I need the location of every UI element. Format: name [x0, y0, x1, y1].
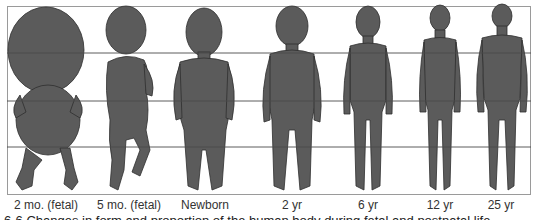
- stage-label-5mo: 5 mo. (fetal): [97, 198, 161, 212]
- stage-label-2yr: 2 yr: [282, 198, 302, 212]
- toddler-2yr-figure: [263, 6, 321, 190]
- stage-label-25yr: 25 yr: [488, 198, 515, 212]
- stage-label-12yr: 12 yr: [427, 198, 454, 212]
- child-6yr-figure: [344, 6, 393, 190]
- stage-label-2mo: 2 mo. (fetal): [14, 198, 78, 212]
- adolescent-12yr-figure: [420, 5, 461, 190]
- newborn-figure: [174, 8, 235, 190]
- body-proportion-illustration: [0, 0, 541, 200]
- figure-caption: 6-6 Changes in form and proportion of th…: [4, 213, 494, 220]
- fetus-5mo-figure: [106, 6, 153, 190]
- stage-label-newborn: Newborn: [181, 198, 229, 212]
- fetus-2mo-figure: [8, 7, 84, 190]
- stage-label-6yr: 6 yr: [358, 198, 378, 212]
- adult-25yr-figure: [477, 4, 528, 190]
